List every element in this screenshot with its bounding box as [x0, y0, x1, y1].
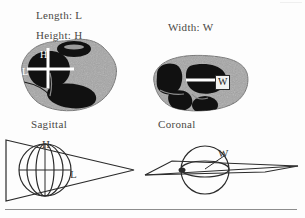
plane-vertex-node: [179, 168, 186, 173]
lesion-superior-highlight: [64, 45, 84, 50]
dimension-letter-length-sagittal: L: [22, 67, 28, 77]
figure-drawing-layer: [0, 0, 305, 218]
coronal-specimen-panel: [154, 55, 248, 114]
schematic-letter-length: L: [70, 169, 77, 180]
sagittal-specimen-panel: [22, 39, 117, 110]
schematic-letter-height: H: [42, 139, 50, 150]
tumor-measurement-figure: Length: L Height: H Width: W Sagittal Co…: [0, 0, 305, 218]
schematic-letter-width: W: [218, 148, 228, 159]
figure-bottom-rule: [5, 209, 297, 210]
dimension-letter-width-coronal: W: [215, 75, 230, 90]
dimension-letter-height-sagittal: H: [40, 50, 47, 60]
